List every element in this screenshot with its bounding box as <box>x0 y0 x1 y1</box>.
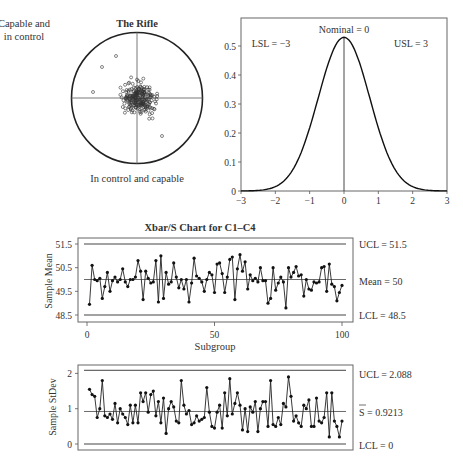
xbar-point <box>323 265 326 268</box>
schart-point <box>307 398 310 401</box>
schart-point <box>256 430 259 433</box>
schart-point <box>129 404 132 407</box>
xbar-point <box>274 289 277 292</box>
schart-ucl-label: UCL = 2.088 <box>359 369 412 380</box>
normal-y-axis: 00.10.20.30.40.5 <box>224 42 241 197</box>
xbar-point <box>256 280 259 283</box>
rifle-caption: In control and capable <box>90 173 184 184</box>
xbar-x-tick-label: 0 <box>85 330 90 340</box>
normal-x-tick-label: −1 <box>305 196 315 206</box>
normal-y-tick-label: 0.4 <box>224 71 236 81</box>
xbar-point <box>195 274 198 277</box>
xbar-point <box>246 287 249 290</box>
xbar-point <box>136 259 139 262</box>
schart-point <box>170 400 173 403</box>
schart-point <box>249 405 252 408</box>
schart-point <box>165 432 168 435</box>
schart-point <box>274 425 277 428</box>
schart-point <box>172 405 175 408</box>
xbar-point <box>205 278 208 281</box>
xbar-point <box>269 297 272 300</box>
schart-point <box>315 397 318 400</box>
schart-point <box>144 391 147 394</box>
xbar-point <box>98 277 101 280</box>
xbar-point <box>144 270 147 273</box>
schart-point <box>203 416 206 419</box>
schart-point <box>154 414 157 417</box>
xbar-point <box>108 290 111 293</box>
schart-point <box>292 420 295 423</box>
xbar-x-tick-label: 50 <box>210 330 220 340</box>
schart-point <box>195 414 198 417</box>
schart-ylabel: Sample StDev <box>47 378 58 436</box>
xbar-point <box>182 287 185 290</box>
schart-point <box>193 421 196 424</box>
schart-point <box>139 391 142 394</box>
xbar-ucl-label: UCL = 51.5 <box>359 239 407 250</box>
xbar-point <box>162 297 165 300</box>
normal-y-tick-label: 0.2 <box>224 129 236 139</box>
schart-point <box>236 391 239 394</box>
schart-point <box>221 427 224 430</box>
schart-point <box>259 407 262 410</box>
schart-point <box>246 430 249 433</box>
schart-point <box>213 427 216 430</box>
schart-point <box>269 379 272 382</box>
rifle-panel: Capable and in control The Rifle In cont… <box>0 18 203 184</box>
schart-point <box>162 397 165 400</box>
xbar-point <box>249 273 252 276</box>
lsl-label: LSL = −3 <box>252 38 291 49</box>
xbar-point <box>221 272 224 275</box>
schart-point <box>264 400 267 403</box>
xbar-point <box>172 261 175 264</box>
schart-point <box>98 407 101 410</box>
schart-point <box>277 416 280 419</box>
schart-point <box>282 402 285 405</box>
shot-marker <box>121 106 124 109</box>
schart-point <box>121 412 124 415</box>
xbar-point <box>124 280 127 283</box>
schart-point <box>185 412 188 415</box>
xbar-point <box>295 265 298 268</box>
shot-marker <box>130 76 133 79</box>
xbar-point <box>198 277 201 280</box>
schart-point <box>340 420 343 423</box>
schart-point <box>93 395 96 398</box>
shot-marker <box>124 83 127 86</box>
xbar-point <box>287 266 290 269</box>
schart-point <box>325 391 328 394</box>
xbar-x-tick-label: 100 <box>335 330 350 340</box>
schart-point <box>330 391 333 394</box>
xbar-point <box>244 260 247 263</box>
shot-marker <box>121 90 124 93</box>
xbar-point <box>310 289 313 292</box>
xbar-point <box>134 276 137 279</box>
schart-point <box>218 404 221 407</box>
schart-point <box>147 411 150 414</box>
xbar-point <box>251 279 254 282</box>
schart-point <box>272 423 275 426</box>
shot-marker <box>148 117 151 120</box>
xbar-point <box>231 255 234 258</box>
xbar-point <box>88 303 91 306</box>
xbar-point <box>277 281 280 284</box>
xbar-point <box>165 271 168 274</box>
schart-point <box>149 393 152 396</box>
schart-point <box>187 409 190 412</box>
schart-y-tick-label: 2 <box>67 369 72 379</box>
shot-marker <box>119 86 122 89</box>
xbar-y-tick-label: 49.5 <box>55 287 72 297</box>
schart-point <box>266 425 269 428</box>
shot-marker <box>148 113 151 116</box>
schart-point <box>157 400 160 403</box>
schart-point <box>134 404 137 407</box>
xbar-point <box>210 273 213 276</box>
normal-y-tick-label: 0.1 <box>224 158 236 168</box>
rifle-title: The Rifle <box>116 18 158 29</box>
nominal-label: Nominal = 0 <box>319 24 370 35</box>
xbar-point <box>147 277 150 280</box>
normal-x-tick-label: 2 <box>410 196 415 206</box>
xbar-point <box>139 270 142 273</box>
schart-point <box>287 375 290 378</box>
normal-y-tick-label: 0.3 <box>224 100 236 110</box>
